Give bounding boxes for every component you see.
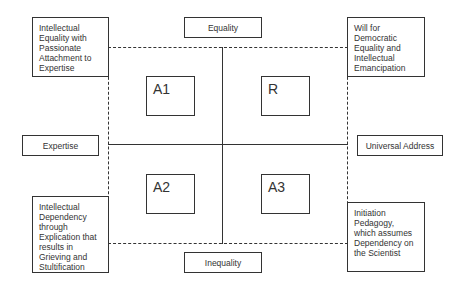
axis-label-left: Expertise: [22, 135, 99, 156]
quadrant-a3: A3: [261, 174, 310, 214]
note-top-left: Intellectual Equality with Passionate At…: [32, 17, 109, 77]
axis-label-top: Equality: [184, 17, 262, 38]
axis-label-bottom: Inequality: [184, 252, 262, 273]
note-bottom-right: Initiation Pedagogy, which assumes Depen…: [347, 202, 425, 272]
vertical-axis-line: [222, 47, 223, 244]
axis-label-right: Universal Address: [357, 135, 443, 156]
quadrant-a1: A1: [146, 76, 195, 116]
horizontal-axis-line: [108, 144, 348, 145]
note-top-right: Will for Democratic Equality and Intelle…: [347, 17, 425, 77]
note-bottom-left: Intellectual Dependency through Explicat…: [32, 196, 109, 273]
dashed-frame: [108, 47, 348, 244]
quadrant-a2: A2: [146, 174, 195, 214]
quadrant-r: R: [261, 76, 310, 116]
